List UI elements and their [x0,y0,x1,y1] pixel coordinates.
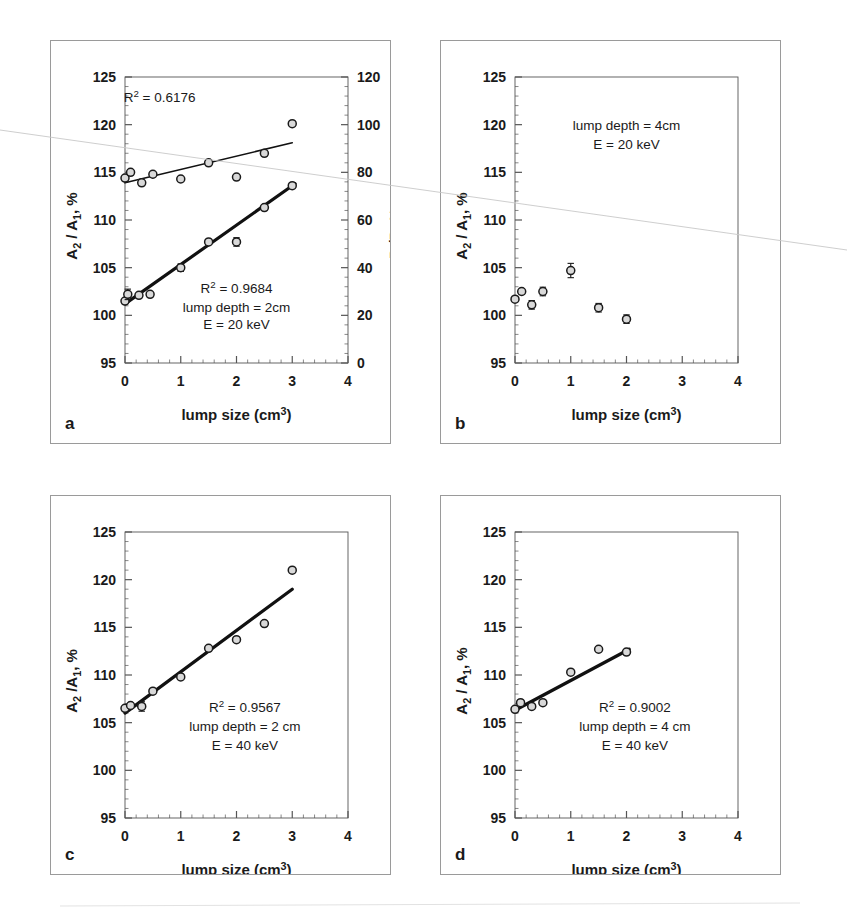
x-tick-label: 0 [121,373,129,389]
x-tick-label: 4 [344,828,352,844]
data-point-marker [233,238,241,246]
data-point-marker [623,648,631,656]
data-point-marker [260,620,268,628]
y-tick-label: 105 [483,260,507,276]
x-axis-title: lump size (cm3) [571,405,681,423]
x-axis-title: lump size (cm3) [181,860,291,874]
data-point-marker [177,673,185,681]
annotation-r2-lower: R2 = 0.9684 [201,279,273,296]
x-tick-label: 2 [623,828,631,844]
data-point-marker [260,149,268,157]
data-point-marker [138,179,146,187]
data-point-marker [539,288,547,296]
y2-tick-label: 80 [357,164,373,180]
y-tick-label: 110 [93,212,116,228]
chart-panel-a: 95100105110115120125020406080100120P2/P1… [50,40,391,444]
x-tick-label: 3 [288,373,296,389]
annotation-energy: E = 20 keV [203,317,269,332]
y-tick-label: 125 [483,69,507,85]
x-tick-label: 3 [678,828,686,844]
annotation-r2: R2 = 0.9567 [209,698,281,715]
data-point-marker [539,699,547,707]
data-point-marker [146,290,154,298]
data-point-marker [595,304,603,312]
y-tick-label: 125 [483,524,507,540]
y-tick-label: 100 [93,762,117,778]
data-point-marker [138,702,146,710]
x-tick-label: 1 [567,373,575,389]
data-point-marker [511,705,519,713]
data-point-marker [205,238,213,246]
x-tick-label: 2 [623,373,631,389]
y2-tick-label: 20 [357,307,373,323]
y-tick-label: 95 [490,810,506,826]
data-point-marker [177,175,185,183]
annotation-lump-depth: lump depth = 4cm [573,118,681,133]
y-tick-label: 120 [483,117,507,133]
data-point-marker [149,687,157,695]
data-point-marker [528,301,536,309]
x-tick-label: 0 [121,828,129,844]
panel-letter: a [65,414,75,433]
y-tick-label: 105 [93,715,117,731]
plot-frame [515,532,738,818]
data-point-marker [288,120,296,128]
data-point-marker [288,182,296,190]
y-tick-label: 115 [483,619,506,635]
x-tick-label: 1 [177,828,185,844]
data-point-marker [518,288,526,296]
artifact-line-bottom [60,903,800,906]
chart-panel-b: 9510010511011512012501234lump size (cm3)… [440,40,781,444]
data-point-marker [124,290,132,298]
data-point-marker [567,267,575,275]
data-point-marker [149,170,157,178]
data-point-marker [595,645,603,653]
x-tick-label: 0 [511,828,519,844]
y-tick-label: 120 [93,572,117,588]
y2-tick-label: 100 [357,117,381,133]
y-tick-label: 100 [93,307,117,323]
plot-area-a: 95100105110115120125020406080100120P2/P1… [51,41,390,443]
y-tick-label: 115 [93,164,116,180]
y-axis-title: A2 / A1, % [453,192,473,259]
y-tick-label: 115 [483,164,506,180]
plot-frame [125,532,348,818]
plot-area-b: 9510010511011512012501234lump size (cm3)… [441,41,780,443]
x-tick-label: 2 [233,828,241,844]
figure-container: 95100105110115120125020406080100120P2/P1… [0,0,847,922]
annotation-energy: E = 40 keV [212,738,278,753]
chart-panel-c: 9510010511011512012501234lump size (cm3)… [50,495,391,875]
panel-letter: b [455,414,465,433]
y-axis-title: A2 / A1, % [453,647,473,714]
data-point-marker [260,204,268,212]
data-point-marker [288,566,296,574]
y-tick-label: 95 [100,355,116,371]
panel-letter: d [455,845,465,864]
x-tick-label: 4 [734,828,742,844]
y-tick-label: 100 [483,307,507,323]
panel-letter: c [65,845,74,864]
x-tick-label: 3 [288,828,296,844]
data-point-marker [205,159,213,167]
y-axis-title: A2 / A1, % [63,192,83,259]
y2-axis-title: P2/P1,% [387,208,390,259]
annotation-lump-depth: lump depth = 2cm [183,300,291,315]
data-point-marker [127,168,135,176]
y2-tick-label: 120 [357,69,381,85]
x-tick-label: 1 [177,373,185,389]
annotation-lump-depth: lump depth = 4 cm [579,719,690,734]
y-tick-label: 110 [483,667,506,683]
data-point-marker [567,668,575,676]
y-tick-label: 95 [100,810,116,826]
x-tick-label: 1 [567,828,575,844]
annotation-r2: R2 = 0.9002 [599,698,671,715]
y-tick-label: 110 [93,667,116,683]
y-tick-label: 125 [93,69,117,85]
y-tick-label: 125 [93,524,117,540]
y-tick-label: 100 [483,762,507,778]
x-axis-title: lump size (cm3) [571,860,681,874]
data-point-marker [511,295,519,303]
x-tick-label: 4 [344,373,352,389]
data-point-marker [528,702,536,710]
annotation-energy: E = 20 keV [593,137,659,152]
